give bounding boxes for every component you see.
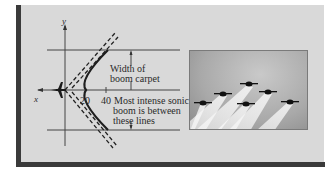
x-axis-label: x [34,94,38,104]
tick-label-40: 40 [101,96,111,106]
jet-formation-image [190,51,308,130]
x-axis-arrow-icon [37,88,43,92]
intense-label-line3: these lines [113,116,155,126]
asymptote-upper-outer [65,33,115,90]
tick-label-20: 20 [80,96,90,106]
jet-formation-photo [189,50,308,130]
aircraft-icon [51,82,66,98]
arrow-up-icon [130,50,133,55]
carpet-width-label-line2: boom carpet [110,74,160,84]
y-axis-label: y [62,16,66,26]
